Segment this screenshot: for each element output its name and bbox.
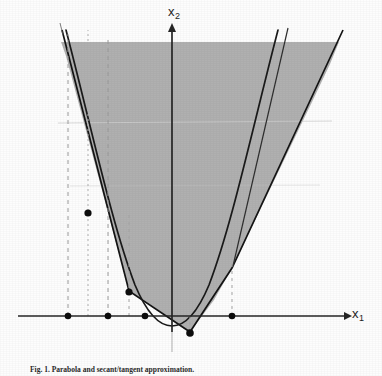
breakpoint-dot bbox=[142, 313, 149, 320]
figure-caption: Fig. 1. Parabola and secant/tangent appr… bbox=[30, 366, 370, 376]
figure-canvas bbox=[0, 0, 382, 376]
x-axis-label-subscript: 1 bbox=[359, 313, 364, 323]
y-axis-label: x2 bbox=[168, 4, 180, 19]
curve-point-dot bbox=[84, 209, 91, 216]
figure-caption-text: Fig. 1. Parabola and secant/tangent appr… bbox=[30, 366, 194, 374]
x-axis-label-text: x bbox=[352, 306, 359, 321]
vertex-point-dot bbox=[186, 329, 194, 337]
y-axis-label-text: x bbox=[168, 4, 175, 19]
curve-point-dot bbox=[125, 288, 132, 295]
breakpoint-dot bbox=[65, 313, 72, 320]
breakpoint-dot bbox=[229, 313, 236, 320]
x-axis-label: x1 bbox=[352, 306, 364, 321]
y-axis-label-subscript: 2 bbox=[175, 11, 180, 21]
breakpoint-dot bbox=[105, 313, 112, 320]
